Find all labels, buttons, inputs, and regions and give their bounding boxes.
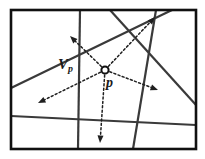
figure-container: Vp p xyxy=(0,0,205,159)
arrangement-figure xyxy=(0,0,205,159)
point-p-marker xyxy=(101,66,108,73)
